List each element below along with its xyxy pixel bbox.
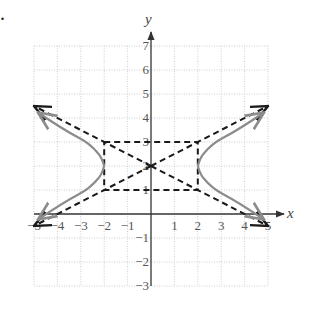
svg-text:7: 7 xyxy=(143,38,150,53)
svg-text:−4: −4 xyxy=(50,218,64,233)
svg-text:−1: −1 xyxy=(135,230,149,245)
hyperbola-left-branch-upper xyxy=(38,113,104,167)
hyperbola-left-branch-lower xyxy=(38,166,104,220)
svg-text:−3: −3 xyxy=(74,218,88,233)
x-axis-label: x xyxy=(286,205,294,221)
asymptote-2-upper xyxy=(34,106,151,166)
svg-text:−2: −2 xyxy=(135,254,149,269)
svg-text:−2: −2 xyxy=(97,218,111,233)
hyperbola-graph: x y −5 −4 −3 −2 −1 1 2 3 4 5 −3 −2 −1 1 … xyxy=(0,0,315,309)
svg-text:4: 4 xyxy=(143,110,150,125)
svg-text:4: 4 xyxy=(241,218,248,233)
hyperbola-right-branch-upper xyxy=(198,113,264,167)
asymptote-2-lower xyxy=(151,166,268,226)
x-tick-labels: −5 −4 −3 −2 −1 1 2 3 4 5 xyxy=(27,218,271,233)
svg-text:5: 5 xyxy=(143,86,150,101)
y-tick-labels: −3 −2 −1 1 2 3 4 5 6 7 xyxy=(135,38,149,293)
svg-text:1: 1 xyxy=(171,218,178,233)
svg-text:−1: −1 xyxy=(121,218,135,233)
asymptote-1-lower xyxy=(34,166,151,226)
svg-text:6: 6 xyxy=(143,62,150,77)
hyperbola-right-branch-lower xyxy=(198,166,264,220)
y-axis-label: y xyxy=(143,11,152,27)
svg-text:3: 3 xyxy=(218,218,225,233)
svg-text:−3: −3 xyxy=(135,278,149,293)
asymptote-1-upper xyxy=(151,106,268,166)
svg-text:2: 2 xyxy=(195,218,202,233)
